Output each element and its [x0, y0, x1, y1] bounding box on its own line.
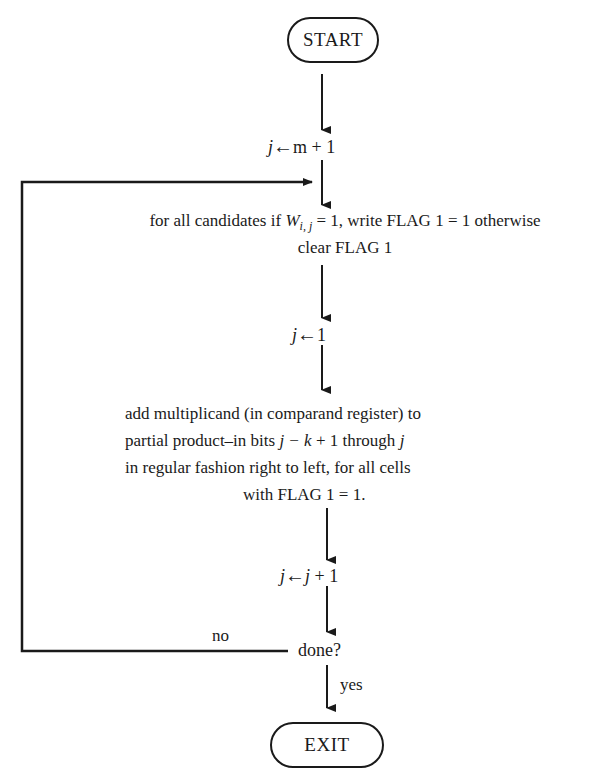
step-add-multiplicand: add multiplicand (in comparand register)… [125, 400, 421, 508]
start-label: START [303, 29, 363, 51]
assign-arrow-icon: ← [273, 135, 293, 157]
exit-label: EXIT [304, 734, 349, 756]
decision-no-label: no [212, 625, 229, 647]
flowchart-connectors [0, 0, 592, 783]
start-terminal: START [287, 17, 379, 63]
step-flag-candidates: for all candidates if Wi, j = 1, write F… [100, 210, 590, 259]
assign-arrow-icon: ← [297, 323, 317, 345]
assign-arrow-icon: ← [285, 564, 305, 586]
increment-assignment: j←j + 1 [280, 564, 338, 587]
init-assignment: j←m + 1 [268, 135, 335, 158]
exit-terminal: EXIT [270, 722, 384, 768]
decision-done: done? [298, 639, 341, 661]
reset-assignment: j←1 [292, 323, 326, 346]
decision-yes-label: yes [340, 674, 363, 696]
